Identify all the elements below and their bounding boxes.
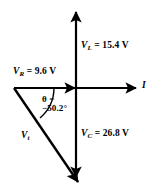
label-vl-value: 15.4 (102, 40, 119, 50)
label-theta-value-line: −50.2° (42, 104, 67, 113)
label-vl: VL = 15.4 V (81, 41, 129, 52)
label-vr-equals: = (27, 66, 33, 76)
label-vr: VR = 9.6 V (13, 67, 56, 78)
label-vl-equals: = (94, 40, 100, 50)
label-vt-subscript: t (27, 134, 29, 142)
label-vc: VC = 26.8 V (81, 129, 129, 140)
label-theta: θ = −50.2° (42, 95, 67, 114)
label-vc-value: 26.8 (103, 128, 120, 138)
label-vr-subscript: R (19, 70, 24, 78)
label-theta-value: −50.2 (42, 103, 63, 113)
label-vr-unit: V (49, 66, 56, 76)
label-vc-unit: V (122, 128, 129, 138)
label-theta-unit: ° (63, 103, 67, 113)
label-vl-unit: V (122, 40, 129, 50)
phasor-diagram-canvas (0, 0, 154, 193)
label-vr-value: 9.6 (35, 66, 47, 76)
phasor-diagram-figure: VL = 15.4 V VR = 9.6 V VC = 26.8 V Vt θ … (0, 0, 154, 193)
label-vc-subscript: C (87, 132, 92, 140)
label-vt: Vt (21, 131, 29, 142)
label-vl-subscript: L (87, 44, 91, 52)
label-current-axis: I (142, 81, 146, 91)
label-vc-equals: = (95, 128, 101, 138)
